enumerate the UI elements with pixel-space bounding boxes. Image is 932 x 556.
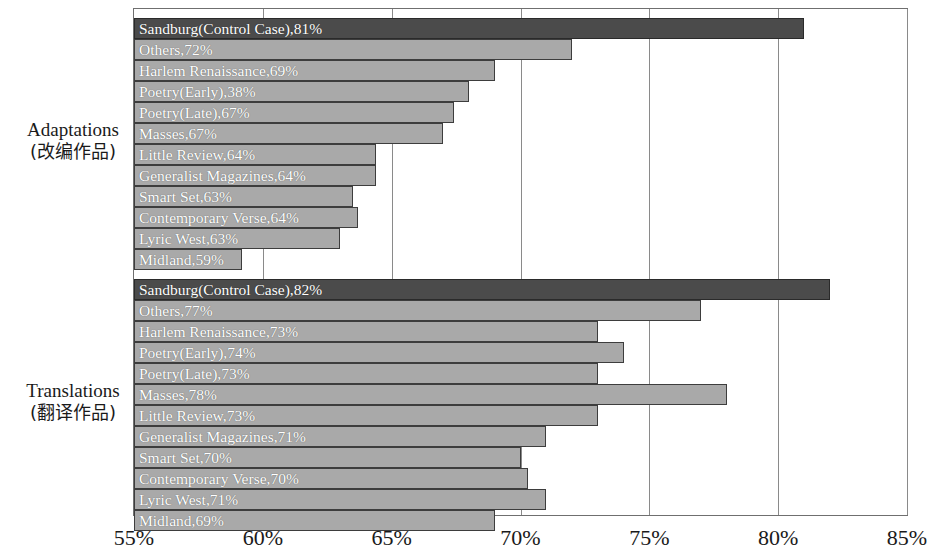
bar-label: Lyric West,63% <box>139 231 238 247</box>
bar[interactable]: Poetry(Early),74% <box>134 342 624 363</box>
bar-row: Masses,78% <box>134 384 907 405</box>
bar-chart: Adaptations (改编作品) Translations (翻译作品) S… <box>0 0 932 556</box>
bar[interactable]: Harlem Renaissance,73% <box>134 321 598 342</box>
bar-row: Generalist Magazines,64% <box>134 165 907 186</box>
bar[interactable]: Generalist Magazines,71% <box>134 426 546 447</box>
bar[interactable]: Lyric West,63% <box>134 228 340 249</box>
bar-label: Generalist Magazines,64% <box>139 168 306 184</box>
bar-label: Poetry(Late),67% <box>139 105 250 121</box>
bar-row: Harlem Renaissance,73% <box>134 321 907 342</box>
bar-label: Masses,67% <box>139 126 217 142</box>
bar[interactable]: Little Review,73% <box>134 405 598 426</box>
bar-label: Lyric West,71% <box>139 492 238 508</box>
bar-row: Smart Set,63% <box>134 186 907 207</box>
x-tick-label: 70% <box>481 525 561 551</box>
bar-row: Sandburg(Control Case),81% <box>134 18 907 39</box>
x-tick-label: 65% <box>352 525 432 551</box>
bar-label: Harlem Renaissance,73% <box>139 324 298 340</box>
bar[interactable]: Others,77% <box>134 300 701 321</box>
bar[interactable]: Harlem Renaissance,69% <box>134 60 495 81</box>
bar[interactable]: Contemporary Verse,70% <box>134 468 528 489</box>
bar-label: Others,77% <box>139 303 213 319</box>
bar-label: Contemporary Verse,70% <box>139 471 299 487</box>
bar-label: Smart Set,63% <box>139 189 232 205</box>
bar[interactable]: Smart Set,63% <box>134 186 353 207</box>
x-axis-tick-labels: 55%60%65%70%75%80%85% <box>0 519 932 556</box>
x-tick-label: 75% <box>609 525 689 551</box>
bar-label: Harlem Renaissance,69% <box>139 63 298 79</box>
bar[interactable]: Midland,59% <box>134 249 242 270</box>
bar-row: Smart Set,70% <box>134 447 907 468</box>
plot-area: Sandburg(Control Case),81%Others,72%Harl… <box>133 8 908 516</box>
category-label-translations-cn: (翻译作品) <box>9 402 137 423</box>
x-tick-label: 55% <box>94 525 174 551</box>
bar[interactable]: Poetry(Late),73% <box>134 363 598 384</box>
bar-row: Others,72% <box>134 39 907 60</box>
bar[interactable]: Little Review,64% <box>134 144 376 165</box>
bar[interactable]: Generalist Magazines,64% <box>134 165 376 186</box>
bar-label: Generalist Magazines,71% <box>139 429 306 445</box>
bar-row: Poetry(Late),67% <box>134 102 907 123</box>
bar[interactable]: Masses,67% <box>134 123 443 144</box>
bar-row: Masses,67% <box>134 123 907 144</box>
bar[interactable]: Lyric West,71% <box>134 489 546 510</box>
bar[interactable]: Masses,78% <box>134 384 727 405</box>
bar-row: Poetry(Early),38% <box>134 81 907 102</box>
bar[interactable]: Contemporary Verse,64% <box>134 207 358 228</box>
category-label-adaptations: Adaptations (改编作品) <box>9 119 137 163</box>
bar-row: Lyric West,71% <box>134 489 907 510</box>
x-tick-label: 85% <box>867 525 932 551</box>
bar[interactable]: Others,72% <box>134 39 572 60</box>
bar-row: Little Review,73% <box>134 405 907 426</box>
bar-row: Little Review,64% <box>134 144 907 165</box>
bar-row: Others,77% <box>134 300 907 321</box>
bar-label: Little Review,64% <box>139 147 255 163</box>
bar-label: Sandburg(Control Case),81% <box>139 21 322 37</box>
bar-label: Others,72% <box>139 42 213 58</box>
bar-label: Poetry(Late),73% <box>139 366 250 382</box>
bar-row: Sandburg(Control Case),82% <box>134 279 907 300</box>
bar-row: Midland,59% <box>134 249 907 270</box>
bar[interactable]: Smart Set,70% <box>134 447 521 468</box>
bar-control[interactable]: Sandburg(Control Case),81% <box>134 18 804 39</box>
bar-label: Little Review,73% <box>139 408 255 424</box>
bar-label: Poetry(Early),74% <box>139 345 256 361</box>
bar-label: Contemporary Verse,64% <box>139 210 299 226</box>
category-label-translations: Translations (翻译作品) <box>9 380 137 424</box>
bar-row: Lyric West,63% <box>134 228 907 249</box>
bar-group-translations: Sandburg(Control Case),82%Others,77%Harl… <box>134 279 907 531</box>
x-tick-label: 80% <box>738 525 818 551</box>
category-label-adaptations-cn: (改编作品) <box>9 141 137 162</box>
category-label-adaptations-en: Adaptations <box>27 119 119 140</box>
x-tick-label: 60% <box>223 525 303 551</box>
bar-control[interactable]: Sandburg(Control Case),82% <box>134 279 830 300</box>
bar-row: Harlem Renaissance,69% <box>134 60 907 81</box>
bar[interactable]: Poetry(Early),38% <box>134 81 469 102</box>
bar-label: Smart Set,70% <box>139 450 232 466</box>
bar-label: Sandburg(Control Case),82% <box>139 282 322 298</box>
bar[interactable]: Poetry(Late),67% <box>134 102 454 123</box>
bar-row: Poetry(Early),74% <box>134 342 907 363</box>
bar-label: Poetry(Early),38% <box>139 84 256 100</box>
category-label-translations-en: Translations <box>26 380 119 401</box>
bar-group-adaptations: Sandburg(Control Case),81%Others,72%Harl… <box>134 18 907 270</box>
bar-row: Contemporary Verse,64% <box>134 207 907 228</box>
bar-row: Poetry(Late),73% <box>134 363 907 384</box>
bar-label: Masses,78% <box>139 387 217 403</box>
bar-row: Generalist Magazines,71% <box>134 426 907 447</box>
bar-row: Contemporary Verse,70% <box>134 468 907 489</box>
gridline <box>907 9 908 515</box>
bar-label: Midland,59% <box>139 252 224 268</box>
